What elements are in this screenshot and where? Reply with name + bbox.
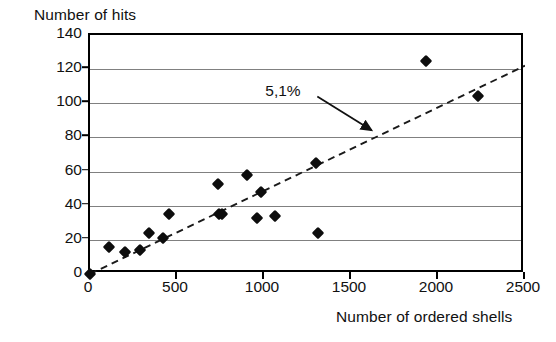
y-tick-mark-80 [82, 135, 89, 137]
y-tick-label-100: 100 [30, 92, 82, 110]
trendline [90, 66, 525, 274]
y-tick-mark-100 [82, 100, 89, 102]
x-tick-mark-2500 [523, 272, 525, 279]
x-tick-label-500: 500 [162, 278, 188, 296]
y-tick-mark-20 [82, 237, 89, 239]
x-tick-label-1500: 1500 [332, 278, 366, 296]
x-tick-mark-2000 [436, 272, 438, 279]
slope-annotation-label: 5,1% [265, 82, 300, 100]
plot-area [88, 33, 523, 272]
scatter-chart: Number of hits 020406080100120140 050010… [0, 0, 556, 342]
y-tick-label-20: 20 [30, 229, 82, 247]
trendline-layer [90, 35, 525, 274]
x-tick-label-2500: 2500 [506, 278, 540, 296]
y-tick-label-0: 0 [30, 263, 82, 281]
x-tick-label-0: 0 [84, 278, 93, 296]
y-tick-label-140: 140 [30, 24, 82, 42]
y-tick-label-80: 80 [30, 126, 82, 144]
x-tick-label-2000: 2000 [419, 278, 453, 296]
y-tick-label-40: 40 [30, 195, 82, 213]
x-tick-mark-1500 [349, 272, 351, 279]
x-tick-label-1000: 1000 [245, 278, 279, 296]
y-tick-label-120: 120 [30, 58, 82, 76]
y-tick-mark-60 [82, 169, 89, 171]
y-tick-mark-40 [82, 203, 89, 205]
y-tick-mark-120 [82, 66, 89, 68]
x-tick-mark-1000 [262, 272, 264, 279]
y-tick-label-60: 60 [30, 161, 82, 179]
x-tick-mark-500 [175, 272, 177, 279]
y-axis-title: Number of hits [34, 6, 136, 24]
x-axis-title: Number of ordered shells [336, 308, 512, 326]
